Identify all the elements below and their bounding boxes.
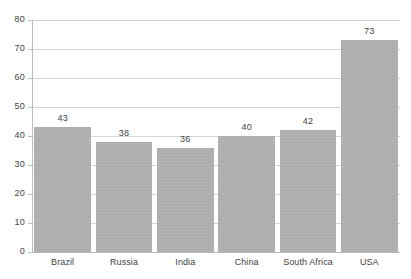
bar-value-label: 42 [277,117,338,126]
x-axis-category-label: Russia [93,256,154,268]
y-tick-mark-0 [28,252,32,253]
bar-slot: 73 [339,20,400,252]
y-tick-mark-60 [28,78,32,79]
plot-area: 433836404273 [32,20,400,252]
bar-brazil[interactable] [34,127,90,252]
bar-india[interactable] [157,148,213,252]
bar-south-africa[interactable] [280,130,336,252]
y-axis-tick-label: 80 [1,15,25,24]
y-axis-line [32,20,33,253]
y-axis-tick-label: 30 [1,160,25,169]
y-tick-mark-10 [28,223,32,224]
bar-value-label: 40 [216,123,277,132]
bar-china[interactable] [218,136,274,252]
bar-value-label: 73 [339,27,400,36]
y-axis-tick-label: 20 [1,189,25,198]
bar-slot: 38 [93,20,154,252]
x-axis-category-label: Brazil [32,256,93,268]
bar-slot: 42 [277,20,338,252]
x-axis-category-label: USA [339,256,400,268]
x-axis: BrazilRussiaIndiaChinaSouth AfricaUSA [32,256,400,272]
bar-value-label: 38 [93,129,154,138]
y-axis-tick-label: 70 [1,44,25,53]
y-axis-tick-label: 0 [1,247,25,256]
x-axis-category-label: China [216,256,277,268]
x-axis-category-label: South Africa [277,256,338,268]
y-tick-mark-80 [28,20,32,21]
bar-value-label: 43 [32,114,93,123]
bar-chart: 433836404273 01020304050607080 BrazilRus… [0,0,411,279]
bars-layer: 433836404273 [32,20,400,252]
bar-value-label: 36 [155,135,216,144]
x-axis-category-label: India [155,256,216,268]
y-tick-mark-20 [28,194,32,195]
bar-usa[interactable] [341,40,397,252]
y-tick-mark-50 [28,107,32,108]
bar-slot: 40 [216,20,277,252]
bar-russia[interactable] [96,142,152,252]
y-tick-mark-70 [28,49,32,50]
y-tick-mark-40 [28,136,32,137]
y-tick-mark-30 [28,165,32,166]
bar-slot: 43 [32,20,93,252]
y-axis-tick-label: 40 [1,131,25,140]
gridline-0 [32,252,400,253]
y-axis-tick-label: 10 [1,218,25,227]
y-axis-tick-label: 60 [1,73,25,82]
y-axis-tick-label: 50 [1,102,25,111]
bar-slot: 36 [155,20,216,252]
